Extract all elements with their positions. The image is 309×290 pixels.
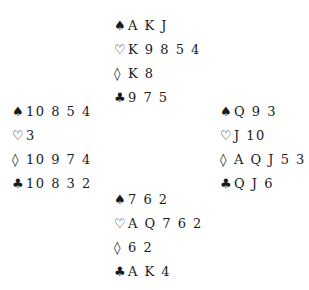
east-clubs-cards: Q J 6 (234, 176, 274, 191)
south-clubs: ♣A K 4 (114, 260, 203, 284)
south-hearts-cards: A Q 7 6 2 (128, 216, 203, 231)
diamond-icon: ◊ (114, 236, 128, 260)
north-clubs-cards: 9 7 5 (128, 90, 169, 105)
west-diamonds: ◊10 9 7 4 (12, 148, 92, 172)
south-spades: ♠7 6 2 (114, 188, 203, 212)
west-hearts: ♡3 (12, 124, 92, 148)
east-spades: ♠Q 9 3 (220, 100, 306, 124)
diamond-icon: ◊ (12, 148, 26, 172)
north-diamonds-cards: K 8 (128, 66, 155, 81)
west-clubs-cards: 10 8 3 2 (26, 176, 92, 191)
club-icon: ♣ (12, 172, 26, 196)
heart-icon: ♡ (114, 212, 128, 236)
west-spades: ♠10 8 5 4 (12, 100, 92, 124)
west-hand: ♠10 8 5 4 ♡3 ◊10 9 7 4 ♣10 8 3 2 (12, 100, 92, 196)
east-hand: ♠Q 9 3 ♡J 10 ◊A Q J 5 3 ♣Q J 6 (220, 100, 306, 196)
east-spades-cards: Q 9 3 (234, 104, 277, 119)
west-spades-cards: 10 8 5 4 (26, 104, 92, 119)
diamond-icon: ◊ (114, 62, 128, 86)
club-icon: ♣ (114, 260, 128, 284)
south-hearts: ♡A Q 7 6 2 (114, 212, 203, 236)
east-hearts-cards: J 10 (234, 128, 266, 143)
heart-icon: ♡ (114, 38, 128, 62)
south-clubs-cards: A K 4 (128, 264, 171, 279)
spade-icon: ♠ (114, 188, 128, 212)
east-diamonds: ◊A Q J 5 3 (220, 148, 306, 172)
south-spades-cards: 7 6 2 (128, 192, 169, 207)
west-diamonds-cards: 10 9 7 4 (26, 152, 92, 167)
north-hearts-cards: K 9 8 5 4 (128, 42, 201, 57)
north-clubs: ♣9 7 5 (114, 86, 201, 110)
north-spades-cards: A K J (128, 18, 168, 33)
east-clubs: ♣Q J 6 (220, 172, 306, 196)
south-diamonds: ◊6 2 (114, 236, 203, 260)
spade-icon: ♠ (114, 14, 128, 38)
club-icon: ♣ (114, 86, 128, 110)
north-diamonds: ◊K 8 (114, 62, 201, 86)
north-spades: ♠A K J (114, 14, 201, 38)
west-clubs: ♣10 8 3 2 (12, 172, 92, 196)
spade-icon: ♠ (220, 100, 234, 124)
south-diamonds-cards: 6 2 (128, 240, 153, 255)
west-hearts-cards: 3 (26, 128, 36, 143)
east-diamonds-cards: A Q J 5 3 (234, 152, 306, 167)
diamond-icon: ◊ (220, 148, 234, 172)
north-hand: ♠A K J ♡K 9 8 5 4 ◊K 8 ♣9 7 5 (114, 14, 201, 110)
heart-icon: ♡ (12, 124, 26, 148)
east-hearts: ♡J 10 (220, 124, 306, 148)
south-hand: ♠7 6 2 ♡A Q 7 6 2 ◊6 2 ♣A K 4 (114, 188, 203, 284)
spade-icon: ♠ (12, 100, 26, 124)
club-icon: ♣ (220, 172, 234, 196)
heart-icon: ♡ (220, 124, 234, 148)
north-hearts: ♡K 9 8 5 4 (114, 38, 201, 62)
